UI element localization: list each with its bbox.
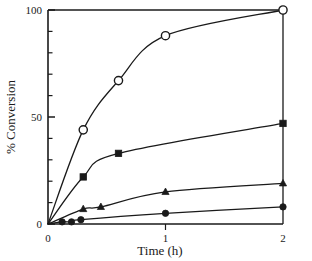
y-tick-label: 0	[37, 218, 43, 230]
chart-svg: 050100012Time (h)% Conversion	[0, 0, 312, 261]
y-tick-label: 100	[26, 4, 43, 16]
data-point-filled-circle	[59, 219, 65, 225]
y-tick-labels: 050100	[26, 4, 43, 230]
data-point-filled-circle	[280, 204, 286, 210]
y-axis-title: % Conversion	[3, 79, 18, 154]
data-point-filled-circle	[68, 219, 74, 225]
data-point-open-circle	[79, 126, 87, 134]
series-group-3	[48, 179, 287, 224]
data-point-filled-square	[80, 174, 86, 180]
data-point-open-circle	[114, 77, 122, 85]
y-tick-label: 50	[31, 111, 43, 123]
data-point-filled-square	[115, 150, 121, 156]
data-point-open-circle	[161, 32, 169, 40]
x-axis-title: Time (h)	[137, 243, 182, 258]
data-point-filled-square	[280, 120, 286, 126]
x-tick-label: 0	[45, 232, 51, 244]
y-ticks	[48, 10, 55, 224]
x-tick-label: 2	[280, 232, 286, 244]
data-point-filled-circle	[78, 217, 84, 223]
data-point-filled-circle	[162, 210, 168, 216]
data-point-open-circle	[279, 6, 287, 14]
chart-figure: 050100012Time (h)% Conversion	[0, 0, 312, 261]
data-point-filled-triangle	[279, 179, 286, 185]
